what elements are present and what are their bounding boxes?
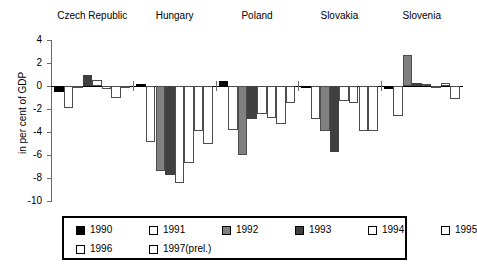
legend-label: 1995 xyxy=(455,225,477,235)
bar xyxy=(73,86,83,88)
bar xyxy=(92,80,102,86)
legend-item[interactable]: 1994 xyxy=(368,225,404,235)
bar xyxy=(368,86,378,131)
legend-item[interactable]: 1996 xyxy=(76,244,112,254)
legend-label: 1996 xyxy=(90,244,112,254)
group-label-poland: Poland xyxy=(216,10,298,21)
legend-swatch-icon xyxy=(295,226,304,235)
bar xyxy=(111,86,121,98)
y-tick-label: 0 xyxy=(14,81,42,91)
y-tick-label: -6 xyxy=(14,150,42,160)
group-label-slovakia: Slovakia xyxy=(298,10,380,21)
bar xyxy=(165,86,175,175)
bar xyxy=(276,86,286,124)
legend-label: 1990 xyxy=(90,225,112,235)
legend-label: 1993 xyxy=(309,225,331,235)
legend-swatch-icon xyxy=(441,226,450,235)
group-separator xyxy=(298,81,299,91)
bar xyxy=(228,86,238,130)
bar xyxy=(184,86,194,163)
y-tick-label: -8 xyxy=(14,173,42,183)
legend-item[interactable]: 1990 xyxy=(76,225,112,235)
bar xyxy=(247,86,257,119)
legend-item[interactable]: 1997(prel.) xyxy=(149,244,211,254)
bar xyxy=(441,83,451,86)
bar xyxy=(412,83,422,86)
legend-item[interactable]: 1992 xyxy=(222,225,258,235)
legend-label: 1992 xyxy=(236,225,258,235)
bar xyxy=(136,84,146,86)
bar xyxy=(450,86,460,99)
legend-swatch-icon xyxy=(149,245,158,254)
bar xyxy=(64,86,74,108)
bar xyxy=(330,86,340,152)
y-tick-label: -4 xyxy=(14,127,42,137)
legend-label: 1994 xyxy=(382,225,404,235)
bar xyxy=(349,86,359,103)
bar xyxy=(339,86,349,101)
y-tick xyxy=(47,201,52,202)
bar xyxy=(267,86,277,118)
legend-label: 1991 xyxy=(163,225,185,235)
bar xyxy=(301,86,311,88)
bar xyxy=(320,86,330,131)
bar xyxy=(121,86,131,88)
group-label-czech-republic: Czech Republic xyxy=(51,10,133,21)
y-tick-label: 4 xyxy=(14,35,42,45)
chart-legend: 199019911992199319941995 19961997(prel.) xyxy=(62,216,407,260)
bar xyxy=(311,86,321,119)
legend-label: 1997(prel.) xyxy=(163,244,211,254)
group-label-hungary: Hungary xyxy=(133,10,215,21)
bar xyxy=(257,86,267,114)
bar xyxy=(146,86,156,142)
legend-item[interactable]: 1991 xyxy=(149,225,185,235)
bar xyxy=(175,86,185,183)
y-tick-label: 2 xyxy=(14,58,42,68)
legend-swatch-icon xyxy=(76,245,85,254)
y-tick-label: -10 xyxy=(14,196,42,206)
bar xyxy=(203,86,213,144)
bar xyxy=(194,86,204,131)
bar xyxy=(219,81,229,86)
group-label-slovenia: Slovenia xyxy=(381,10,463,21)
legend-item[interactable]: 1995 xyxy=(441,225,477,235)
group-separator xyxy=(381,81,382,91)
bar xyxy=(286,86,296,103)
legend-swatch-icon xyxy=(149,226,158,235)
bar xyxy=(393,86,403,116)
legend-item[interactable]: 1993 xyxy=(295,225,331,235)
bar xyxy=(83,75,93,87)
legend-swatch-icon xyxy=(222,226,231,235)
group-separator xyxy=(133,81,134,91)
group-separator xyxy=(216,81,217,91)
bar xyxy=(359,86,369,131)
y-tick-label: -2 xyxy=(14,104,42,114)
bar xyxy=(54,86,64,92)
bar xyxy=(238,86,248,155)
legend-swatch-icon xyxy=(368,226,377,235)
legend-swatch-icon xyxy=(76,226,85,235)
bar xyxy=(431,86,441,88)
bar xyxy=(156,86,166,171)
plot-area xyxy=(51,40,463,201)
bar xyxy=(422,84,432,86)
bar xyxy=(102,86,112,89)
bar xyxy=(384,86,394,89)
bar xyxy=(403,55,413,86)
